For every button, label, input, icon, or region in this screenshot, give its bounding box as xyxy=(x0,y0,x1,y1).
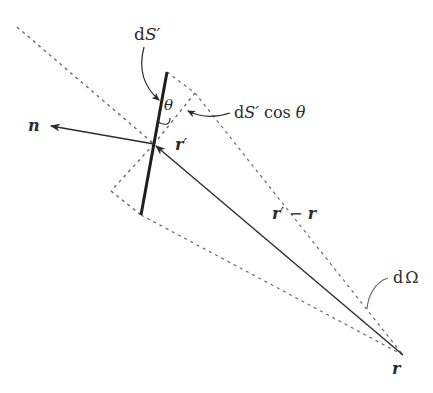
projected-area-label: dS′ cos θ xyxy=(234,103,306,122)
projected-box-lower-edge xyxy=(111,191,141,215)
solid-angle-label-pointer xyxy=(367,278,388,309)
projected-label-pointer xyxy=(188,111,230,116)
diagram-canvas: dS′ θ dS′ cos θ n r′ r′ − r dΩ r xyxy=(0,0,433,393)
source-point-label: r′ xyxy=(175,135,187,154)
solid-angle-label: dΩ xyxy=(393,268,419,287)
observation-point-label: r xyxy=(392,359,402,378)
cone-edge-lower xyxy=(141,215,403,355)
surface-element-label: dS′ xyxy=(134,24,161,44)
normal-vector-arrow xyxy=(51,126,154,144)
difference-vector-label: r′ − r xyxy=(272,204,318,223)
surface-label-pointer xyxy=(142,47,159,100)
solid-angle-diagram: dS′ θ dS′ cos θ n r′ r′ − r dΩ r xyxy=(0,0,433,393)
normal-label: n xyxy=(28,116,40,135)
difference-vector-arrow xyxy=(156,146,403,355)
theta-label: θ xyxy=(164,96,173,114)
